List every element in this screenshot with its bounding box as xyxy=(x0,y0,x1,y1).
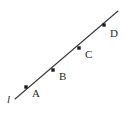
figure-canvas xyxy=(0,0,125,115)
point-label-a: A xyxy=(32,88,40,99)
point-marker-d xyxy=(102,23,105,26)
point-label-d: D xyxy=(110,28,118,39)
point-label-c: C xyxy=(85,49,92,60)
point-marker-c xyxy=(77,46,80,49)
point-label-b: B xyxy=(59,71,66,82)
point-marker-b xyxy=(51,68,54,71)
geometry-figure: l A B C D xyxy=(0,0,125,115)
point-marker-a xyxy=(24,85,27,88)
line-label-l: l xyxy=(7,94,10,105)
